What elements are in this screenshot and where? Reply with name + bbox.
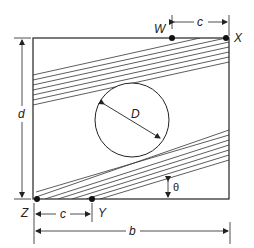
- point-W: [169, 35, 175, 41]
- label-Z: Z: [20, 206, 29, 220]
- label-c-bottom: c: [60, 207, 66, 221]
- label-Y: Y: [98, 206, 107, 220]
- point-Y: [89, 196, 95, 202]
- label-c-top: c: [197, 15, 203, 29]
- point-X: [223, 35, 229, 41]
- label-b: b: [129, 224, 136, 238]
- label-W: W: [154, 22, 167, 36]
- plate-diagram: D W X Z Y c d c b θ: [0, 0, 254, 248]
- label-X: X: [233, 31, 243, 45]
- label-D: D: [131, 107, 140, 121]
- label-d: d: [18, 107, 25, 121]
- point-Z: [34, 196, 40, 202]
- label-theta: θ: [173, 181, 179, 193]
